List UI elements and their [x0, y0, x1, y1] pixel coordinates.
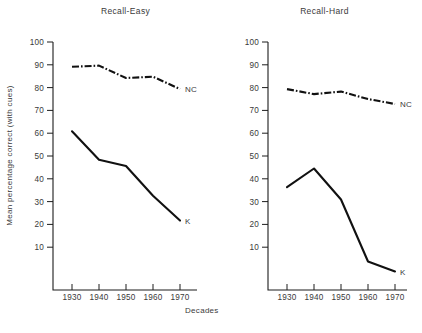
y-tick-label: 50: [249, 152, 259, 161]
series-label-k: K: [400, 268, 406, 277]
series-line-k: [287, 169, 395, 272]
x-tick-label: 1960: [358, 293, 377, 302]
y-tick-label: 70: [249, 106, 259, 115]
x-tick-label: 1940: [304, 293, 323, 302]
series-label-nc: NC: [400, 100, 412, 109]
x-tick-label: 1970: [170, 293, 189, 302]
y-tick-label: 90: [34, 61, 44, 70]
plot-area-recall-hard: 100 90 80 70 60 50 40 30 20 10 1930 19: [215, 0, 422, 333]
y-tick-marks: [47, 42, 53, 247]
x-tick-marks: [72, 284, 180, 290]
x-tick-label: 1950: [331, 293, 350, 302]
series-label-k: K: [185, 217, 191, 226]
x-tick-labels: 1930 1940 1950 1960 1970: [277, 293, 404, 302]
y-tick-label: 30: [249, 198, 259, 207]
y-tick-label: 80: [249, 84, 259, 93]
series-line-k: [72, 131, 180, 220]
y-tick-label: 60: [34, 129, 44, 138]
y-tick-label: 90: [249, 61, 259, 70]
y-tick-label: 30: [34, 198, 44, 207]
x-tick-labels: 1930 1940 1950 1960 1970: [62, 293, 189, 302]
series-line-nc: [287, 89, 395, 104]
x-tick-label: 1950: [116, 293, 135, 302]
y-tick-label: 50: [34, 152, 44, 161]
x-tick-label: 1970: [385, 293, 404, 302]
y-tick-label: 60: [249, 129, 259, 138]
figure-recall-decades: Recall-Easy Mean percentage correct (wit…: [0, 0, 422, 333]
y-tick-labels: 100 90 80 70 60 50 40 30 20 10: [245, 38, 260, 252]
y-tick-marks: [262, 42, 268, 247]
y-tick-label: 10: [249, 243, 259, 252]
y-tick-label: 80: [34, 84, 44, 93]
plot-area-recall-easy: 100 90 80 70 60 50 40 30 20 10 1930: [0, 0, 215, 333]
y-tick-label: 40: [34, 175, 44, 184]
x-axis-label: Decades: [185, 306, 219, 315]
series-line-nc: [72, 66, 180, 90]
x-tick-marks: [287, 284, 395, 290]
x-tick-label: 1930: [62, 293, 81, 302]
y-tick-labels: 100 90 80 70 60 50 40 30 20 10: [30, 38, 45, 252]
y-tick-label: 20: [34, 220, 44, 229]
axis-lines: [268, 42, 407, 290]
y-tick-label: 70: [34, 106, 44, 115]
chart-panel-recall-easy: Recall-Easy Mean percentage correct (wit…: [0, 0, 215, 333]
x-tick-label: 1960: [143, 293, 162, 302]
y-tick-label: 100: [245, 38, 260, 47]
y-tick-label: 20: [249, 220, 259, 229]
y-tick-label: 100: [30, 38, 45, 47]
series-label-nc: NC: [185, 85, 197, 94]
y-tick-label: 40: [249, 175, 259, 184]
x-tick-label: 1930: [277, 293, 296, 302]
chart-panel-recall-hard: Recall-Hard 100 90 80 70 60: [215, 0, 422, 333]
y-tick-label: 10: [34, 243, 44, 252]
x-tick-label: 1940: [89, 293, 108, 302]
